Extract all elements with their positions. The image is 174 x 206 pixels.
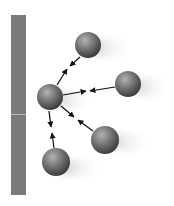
sphere-bottom — [42, 148, 70, 176]
wall-lower — [11, 115, 26, 195]
sphere-lower-right — [91, 126, 119, 154]
diagram-canvas — [0, 0, 174, 206]
arrow-top-to-center — [70, 57, 80, 66]
arrow-bottom-to-center — [52, 133, 54, 148]
wall-upper — [11, 15, 26, 114]
wall — [11, 15, 26, 195]
wall-divider — [11, 114, 26, 115]
sphere-right — [115, 71, 141, 97]
arrow-center-to-bottom — [49, 111, 51, 127]
arrow-center-to-top — [57, 69, 67, 85]
sphere-center — [37, 84, 63, 110]
arrow-right-to-center — [90, 87, 115, 91]
sphere-top — [75, 32, 101, 58]
arrow-lower-right-to-center — [78, 120, 93, 131]
